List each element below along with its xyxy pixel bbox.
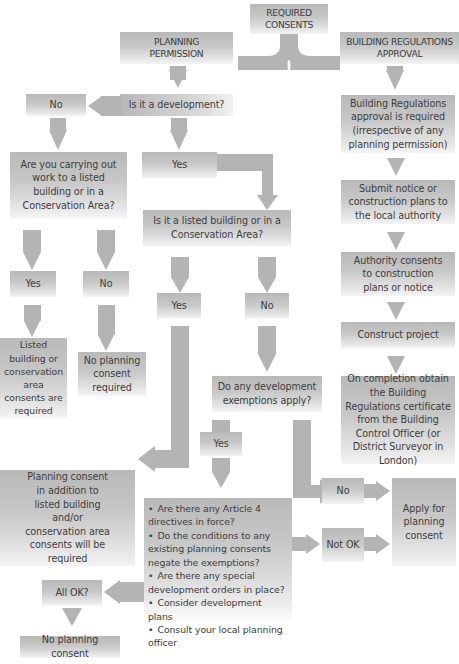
arrow-down-icon xyxy=(62,608,82,626)
arrow-down-icon xyxy=(49,130,67,150)
arrow-shaft xyxy=(212,458,230,472)
checklist-item: Consult your local planning officer xyxy=(148,623,288,650)
arrow-right-icon xyxy=(376,534,390,554)
work-yes-box: Yes xyxy=(10,271,56,297)
arrow-shaft xyxy=(258,257,276,277)
no-planning-required-box: No planning consent required xyxy=(78,352,146,396)
arrow-down-icon xyxy=(98,335,114,351)
arrow-down-icon xyxy=(212,472,230,488)
arrow-shaft xyxy=(98,305,115,335)
arrow-left-icon xyxy=(104,580,120,604)
arrow-down-icon xyxy=(97,252,115,270)
exemptions-no-box: No xyxy=(322,478,364,504)
br-required-box: Building Regulations approval is require… xyxy=(341,95,455,153)
all-ok-box: All OK? xyxy=(42,580,102,606)
arrow-down-icon xyxy=(387,356,405,374)
required-consents-box: REQUIRED CONSENTS xyxy=(250,4,328,34)
arrow-right-icon xyxy=(376,481,390,501)
planning-permission-box: PLANNING PERMISSION xyxy=(120,32,233,64)
arrow-shaft xyxy=(97,230,115,252)
apply-planning-box: Apply for planning consent xyxy=(392,478,456,566)
arrow-down-icon xyxy=(387,302,405,320)
checklist-item: Do the conditions to any existing planni… xyxy=(148,529,288,569)
on-completion-box: On completion obtain the Building Regula… xyxy=(341,376,455,464)
construct-project-box: Construct project xyxy=(341,322,455,348)
split-connector xyxy=(238,33,340,70)
listed-yes-box: Yes xyxy=(157,293,201,319)
no-development-box: No xyxy=(26,94,86,116)
arrow-shaft xyxy=(258,326,276,354)
yes-to-listed-connector xyxy=(215,154,273,195)
listed-no-box: No xyxy=(245,293,289,319)
arrow-down-icon xyxy=(387,232,405,250)
exemptions-apply-box: Do any development exemptions apply? xyxy=(212,376,322,412)
is-development-box: Is it a development? xyxy=(120,94,233,116)
checklist-box: Are there any Article 4 directives in fo… xyxy=(144,498,292,624)
arrow-down-icon xyxy=(258,354,276,372)
arrow-shaft xyxy=(364,484,376,498)
arrow-shaft xyxy=(292,537,306,551)
submit-notice-box: Submit notice or construction plans to t… xyxy=(341,180,455,224)
arrow-shaft xyxy=(171,257,189,277)
arrow-shaft xyxy=(24,305,41,321)
checklist-item: Are there any Article 4 directives in fo… xyxy=(148,502,288,529)
checklist-item: Consider development plans xyxy=(148,596,288,623)
planning-plus-listed-box: Planning consent in addition to listed b… xyxy=(0,470,135,566)
building-regs-approval-box: BUILDING REGULATIONS APPROVAL xyxy=(340,32,459,64)
work-no-box: No xyxy=(83,271,129,297)
arrow-down-icon xyxy=(171,277,189,293)
arrow-down-icon xyxy=(170,130,188,150)
listed-consents-required-box: Listed building or conservation area con… xyxy=(0,338,67,418)
arrow-left-icon xyxy=(88,96,102,116)
arrow-shaft xyxy=(23,230,41,252)
arrow-down-icon xyxy=(386,70,404,90)
checklist: Are there any Article 4 directives in fo… xyxy=(148,502,288,650)
exemptions-yes-box: Yes xyxy=(200,432,242,456)
carrying-out-work-box: Are you carrying out work to a listed bu… xyxy=(10,152,127,218)
arrow-shaft xyxy=(212,420,230,432)
authority-consents-box: Authority consents to construction plans… xyxy=(341,252,455,296)
no-planning-consent-box: No planning consent xyxy=(20,636,120,658)
not-ok-box: Not OK xyxy=(322,528,364,562)
arrow-down-icon xyxy=(258,277,276,293)
arrow-down-icon xyxy=(169,70,187,88)
is-listed-box: Is it a listed building or in a Conserva… xyxy=(143,210,291,246)
arrow-shaft xyxy=(120,582,144,602)
arrow-down-icon xyxy=(24,321,40,337)
arrow-right-icon xyxy=(306,534,320,554)
yes-development-box: Yes xyxy=(142,152,217,178)
arrow-down-icon xyxy=(23,252,41,270)
checklist-item: Are there any special development orders… xyxy=(148,569,288,596)
arrow-down-icon xyxy=(387,158,405,176)
arrow-shaft xyxy=(364,537,376,551)
arrow-shaft xyxy=(101,96,121,116)
